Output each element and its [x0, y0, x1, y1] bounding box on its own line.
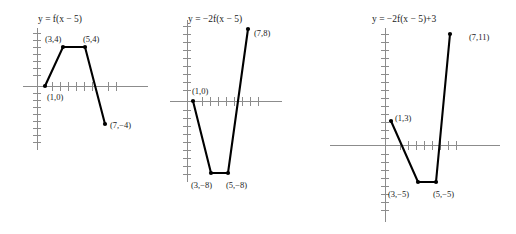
panel-2-point-label-1: (1,0) [192, 86, 208, 96]
panel-2-point-7 [246, 27, 250, 31]
panel-1-point-label-7: (7,−4) [110, 120, 131, 130]
panel-2-point-5 [226, 171, 230, 175]
panel-2-title: y = −2f(x − 5) [188, 14, 242, 25]
panel-1-title: y = f(x − 5) [38, 14, 82, 25]
chart-panel-1: y = f(x − 5) [0, 0, 172, 234]
panel-3-point-label-7: (7,11) [469, 32, 489, 42]
chart-panel-3: y = −2f(x − 5)+3 [330, 0, 516, 234]
panel-3-point-3 [416, 180, 420, 184]
chart-panel-2: y = −2f(x − 5) [170, 0, 330, 234]
panel-2-point-label-3: (3,−8) [191, 180, 212, 190]
panel-3-point-label-1: (1,3) [395, 113, 411, 123]
panel-3-point-7 [448, 32, 452, 36]
panel-2-point-3 [209, 171, 213, 175]
panel-1-point-1 [43, 84, 47, 88]
panel-2-point-label-7: (7,8) [254, 28, 270, 38]
panel-3-point-label-5: (5,−5) [433, 189, 454, 199]
figure-container: y = f(x − 5) [0, 0, 516, 234]
panel-3-title: y = −2f(x − 5)+3 [372, 14, 436, 25]
panel-3-point-1 [389, 119, 393, 123]
panel-3-point-5 [434, 180, 438, 184]
panel-1-point-5 [83, 45, 87, 49]
panel-2-point-1 [191, 99, 195, 103]
panel-1-point-label-3: (3,4) [45, 34, 61, 44]
panel-1-curve [45, 47, 105, 124]
panel-1-point-7 [103, 122, 107, 126]
panel-1-point-label-1: (1,0) [47, 92, 63, 102]
panel-2-point-label-5: (5,−8) [226, 180, 247, 190]
panel-1-point-label-5: (5,4) [83, 34, 99, 44]
panel-3-point-label-3: (3,−5) [388, 189, 409, 199]
panel-1-point-3 [61, 45, 65, 49]
panel-3-curve [391, 34, 450, 182]
